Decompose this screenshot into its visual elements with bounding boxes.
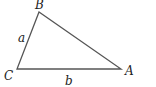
triangle-diagram: B C A a b [0, 0, 156, 87]
side-label-b: b [65, 74, 73, 87]
vertex-label-a: A [124, 64, 134, 78]
vertex-label-c: C [4, 69, 13, 83]
vertex-label-b: B [34, 0, 44, 12]
side-label-a: a [18, 31, 25, 45]
triangle-abc [17, 12, 121, 69]
